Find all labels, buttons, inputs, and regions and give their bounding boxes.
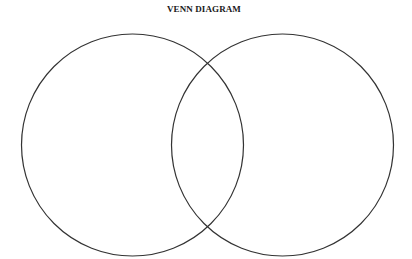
venn-diagram <box>0 0 412 259</box>
right-circle <box>172 34 394 256</box>
left-circle <box>22 34 244 256</box>
